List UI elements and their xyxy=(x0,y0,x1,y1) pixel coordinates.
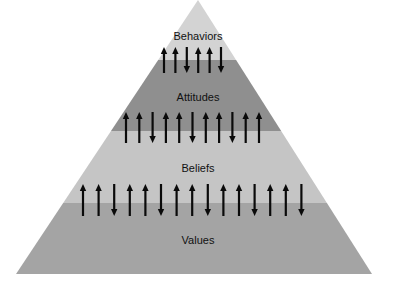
layer-label-attitudes: Attitudes xyxy=(177,91,220,103)
layer-label-behaviors: Behaviors xyxy=(174,30,223,42)
layer-label-beliefs: Beliefs xyxy=(181,162,215,174)
layer-label-values: Values xyxy=(182,234,215,246)
pyramid-diagram: Behaviors Attitudes Beliefs Values xyxy=(0,0,394,291)
arrow-row-3 xyxy=(80,184,305,216)
pyramid-canvas: Behaviors Attitudes Beliefs Values xyxy=(0,0,394,291)
